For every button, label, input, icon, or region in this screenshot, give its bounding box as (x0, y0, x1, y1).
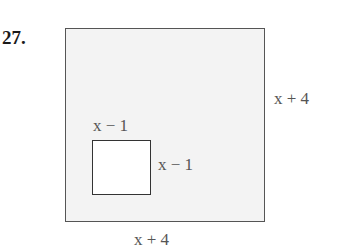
inner-top-label: x − 1 (93, 116, 128, 136)
inner-square (92, 140, 151, 195)
inner-right-label: x − 1 (158, 155, 193, 175)
outer-right-label: x + 4 (274, 89, 309, 109)
outer-bottom-label: x + 4 (134, 230, 169, 250)
problem-number: 27. (2, 27, 26, 49)
